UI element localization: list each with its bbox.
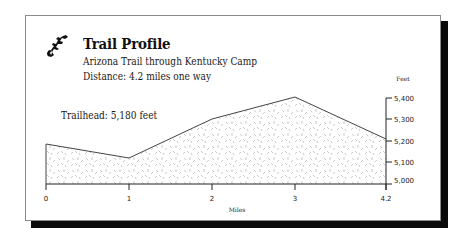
y-tick-5200: 5,200 <box>394 138 414 146</box>
x-tick-2: 2 <box>210 195 214 203</box>
y-tick-5000: 5,000 <box>394 177 414 185</box>
x-axis-title: Miles <box>229 206 246 213</box>
x-tick-1: 1 <box>127 195 131 203</box>
y-tick-5400: 5,400 <box>394 95 414 103</box>
y-axis-title: Feet <box>396 75 410 82</box>
y-axis-ticks <box>386 98 392 184</box>
y-tick-5100: 5,100 <box>394 159 414 167</box>
x-tick-4: 4.2 <box>380 195 391 203</box>
elevation-chart: 0 1 2 3 4.2 Miles 5,400 5,300 5,200 5,10… <box>0 0 470 241</box>
x-tick-0: 0 <box>44 195 48 203</box>
x-axis-ticks <box>46 184 386 190</box>
x-tick-3: 3 <box>293 195 297 203</box>
elevation-area <box>46 97 386 184</box>
y-tick-5300: 5,300 <box>394 116 414 124</box>
